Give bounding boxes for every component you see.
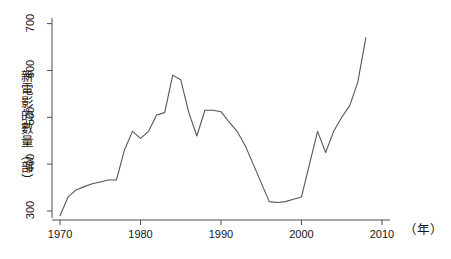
x-axis-tick-label: 2010 xyxy=(362,228,402,240)
x-axis-tick-label: 2000 xyxy=(281,228,321,240)
y-axis-tick-label: 500 xyxy=(24,99,36,133)
axis-lines xyxy=(52,18,390,220)
line-chart: 新電影的數量（部） （年） 300400500600700 1970198019… xyxy=(0,0,451,259)
y-axis-ticks xyxy=(47,24,52,211)
x-axis-tick-label: 1980 xyxy=(121,228,161,240)
y-axis-tick-label: 300 xyxy=(24,193,36,227)
y-axis-tick-label: 600 xyxy=(24,52,36,86)
x-axis-tick-label: 1970 xyxy=(40,228,80,240)
plot-area xyxy=(0,0,451,259)
x-axis-ticks xyxy=(60,220,382,225)
data-series-line xyxy=(60,38,366,216)
x-axis-tick-label: 1990 xyxy=(201,228,241,240)
y-axis-tick-label: 400 xyxy=(24,146,36,180)
y-axis-tick-label: 700 xyxy=(24,6,36,40)
x-axis-title: （年） xyxy=(404,219,443,238)
